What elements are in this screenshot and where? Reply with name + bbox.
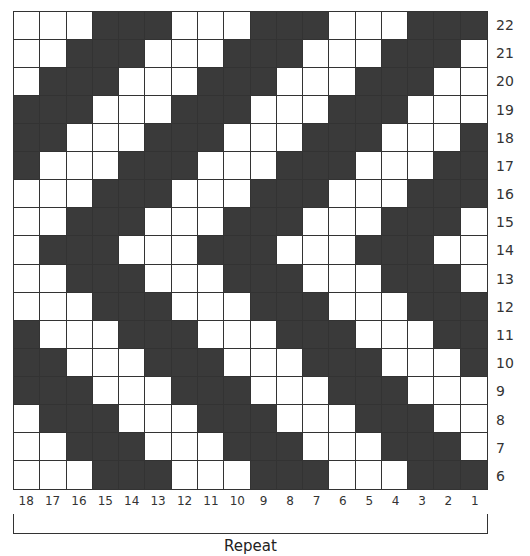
grid-cell-r7-c17-light — [40, 433, 66, 461]
row-label: 16 — [496, 180, 526, 208]
grid-cell-r6-c11-light — [198, 461, 224, 489]
grid-cell-r18-c12-dark — [172, 124, 198, 152]
grid-cell-r20-c5-dark — [356, 68, 382, 96]
grid-cell-r15-c6-light — [329, 208, 355, 236]
grid-cell-r13-c16-dark — [67, 265, 93, 293]
grid-cell-r21-c15-dark — [93, 40, 119, 68]
grid-cell-r7-c1-light — [461, 433, 487, 461]
grid-cell-r19-c5-dark — [356, 96, 382, 124]
row-label: 20 — [496, 67, 526, 95]
grid-cell-r16-c6-light — [329, 180, 355, 208]
grid-cell-r12-c2-dark — [434, 293, 460, 321]
grid-cell-r6-c12-light — [172, 461, 198, 489]
grid-cell-r9-c2-light — [434, 377, 460, 405]
grid-cell-r13-c5-light — [356, 265, 382, 293]
grid-cell-r12-c9-dark — [251, 293, 277, 321]
grid-cell-r11-c4-light — [382, 321, 408, 349]
grid-cell-r16-c8-dark — [277, 180, 303, 208]
grid-cell-r19-c2-light — [434, 96, 460, 124]
grid-cell-r12-c15-dark — [93, 293, 119, 321]
column-label: 17 — [39, 494, 65, 512]
grid-cell-r7-c14-dark — [119, 433, 145, 461]
grid-cell-r21-c9-dark — [251, 40, 277, 68]
grid-cell-r20-c14-light — [119, 68, 145, 96]
grid-cell-r20-c8-light — [277, 68, 303, 96]
grid-cell-r6-c2-dark — [434, 461, 460, 489]
column-label: 5 — [356, 494, 382, 512]
grid-cell-r6-c18-light — [14, 461, 40, 489]
grid-cell-r19-c7-light — [303, 96, 329, 124]
grid-cell-r10-c5-dark — [356, 349, 382, 377]
grid-cell-r20-c6-light — [329, 68, 355, 96]
grid-cell-r15-c5-light — [356, 208, 382, 236]
grid-cell-r14-c17-dark — [40, 236, 66, 264]
column-label: 14 — [119, 494, 145, 512]
column-label: 7 — [303, 494, 329, 512]
grid-cell-r10-c10-light — [224, 349, 250, 377]
grid-cell-r8-c7-light — [303, 405, 329, 433]
grid-cell-r13-c7-light — [303, 265, 329, 293]
grid-cell-r16-c4-light — [382, 180, 408, 208]
grid-cell-r21-c1-light — [461, 40, 487, 68]
grid-cell-r11-c14-dark — [119, 321, 145, 349]
grid-cell-r6-c8-dark — [277, 461, 303, 489]
grid-cell-r14-c7-light — [303, 236, 329, 264]
grid-cell-r7-c11-light — [198, 433, 224, 461]
grid-cell-r8-c5-dark — [356, 405, 382, 433]
grid-cell-r8-c18-light — [14, 405, 40, 433]
grid-cell-r16-c3-dark — [408, 180, 434, 208]
grid-cell-r21-c14-dark — [119, 40, 145, 68]
column-label: 11 — [198, 494, 224, 512]
grid-cell-r6-c6-light — [329, 461, 355, 489]
grid-cell-r7-c5-light — [356, 433, 382, 461]
grid-cell-r13-c4-dark — [382, 265, 408, 293]
grid-cell-r17-c9-light — [251, 152, 277, 180]
grid-cell-r7-c3-dark — [408, 433, 434, 461]
grid-cell-r10-c16-light — [67, 349, 93, 377]
grid-cell-r22-c10-light — [224, 12, 250, 40]
grid-cell-r18-c13-dark — [145, 124, 171, 152]
grid-cell-r17-c18-dark — [14, 152, 40, 180]
grid-cell-r13-c11-light — [198, 265, 224, 293]
row-label: 22 — [496, 11, 526, 39]
grid-cell-r8-c17-dark — [40, 405, 66, 433]
grid-cell-r11-c5-light — [356, 321, 382, 349]
grid-cell-r15-c4-dark — [382, 208, 408, 236]
grid-cell-r20-c7-light — [303, 68, 329, 96]
row-label: 6 — [496, 462, 526, 490]
grid-cell-r19-c1-light — [461, 96, 487, 124]
grid-cell-r7-c9-dark — [251, 433, 277, 461]
grid-cell-r14-c10-dark — [224, 236, 250, 264]
row-label: 17 — [496, 152, 526, 180]
grid-cell-r16-c2-dark — [434, 180, 460, 208]
grid-cell-r20-c3-dark — [408, 68, 434, 96]
grid-cell-r17-c12-dark — [172, 152, 198, 180]
column-label: 16 — [66, 494, 92, 512]
grid-cell-r7-c15-dark — [93, 433, 119, 461]
grid-cell-r17-c6-dark — [329, 152, 355, 180]
grid-cell-r9-c18-dark — [14, 377, 40, 405]
grid-cell-r16-c10-light — [224, 180, 250, 208]
grid-cell-r6-c16-light — [67, 461, 93, 489]
grid-cell-r20-c4-dark — [382, 68, 408, 96]
grid-cell-r12-c16-light — [67, 293, 93, 321]
column-label: 9 — [251, 494, 277, 512]
grid-cell-r22-c5-light — [356, 12, 382, 40]
grid-cell-r8-c8-light — [277, 405, 303, 433]
row-label: 9 — [496, 377, 526, 405]
grid-cell-r13-c14-dark — [119, 265, 145, 293]
grid-cell-r11-c3-light — [408, 321, 434, 349]
grid-cell-r8-c11-dark — [198, 405, 224, 433]
grid-cell-r11-c18-dark — [14, 321, 40, 349]
grid-cell-r16-c18-light — [14, 180, 40, 208]
grid-cell-r13-c1-light — [461, 265, 487, 293]
grid-cell-r7-c8-dark — [277, 433, 303, 461]
grid-cell-r21-c7-light — [303, 40, 329, 68]
grid-cell-r17-c3-light — [408, 152, 434, 180]
grid-cell-r12-c6-light — [329, 293, 355, 321]
grid-cell-r16-c5-light — [356, 180, 382, 208]
grid-cell-r20-c10-dark — [224, 68, 250, 96]
grid-cell-r16-c15-dark — [93, 180, 119, 208]
grid-cell-r18-c14-light — [119, 124, 145, 152]
grid-cell-r14-c3-dark — [408, 236, 434, 264]
